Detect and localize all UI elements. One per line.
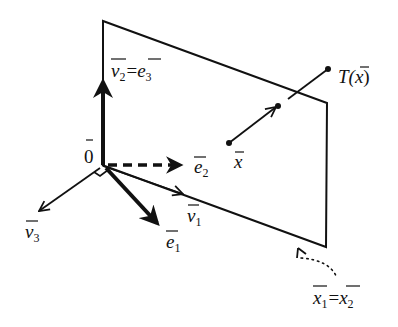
callout-x1-x2 — [297, 248, 337, 278]
svg-text:e1: e1 — [166, 231, 180, 255]
label-x1-equals-x2: x1=x2 — [312, 286, 360, 311]
label-v1: v1 — [187, 205, 201, 229]
plane — [102, 21, 327, 247]
diagram-canvas: 0 v2=e3 e2 x T(x) v1 e1 v3 x1=x2 — [0, 0, 398, 327]
vector-v3 — [39, 168, 100, 211]
label-Tx: T(x) — [338, 66, 370, 88]
svg-text:x: x — [233, 151, 243, 172]
reflection-segment — [226, 66, 331, 146]
svg-text:x1=x2: x1=x2 — [312, 287, 354, 311]
label-e1: e1 — [166, 231, 180, 255]
label-origin: 0 — [84, 140, 94, 167]
point-midpoint — [275, 103, 281, 109]
label-v3: v3 — [25, 221, 39, 245]
point-Tx — [325, 66, 331, 72]
label-v2-equals-e3: v2=e3 — [111, 59, 161, 84]
svg-text:v3: v3 — [25, 221, 39, 245]
svg-text:v2=e3: v2=e3 — [111, 60, 152, 84]
svg-text:T(x): T(x) — [338, 66, 370, 88]
svg-text:e2: e2 — [194, 156, 208, 180]
label-e2: e2 — [194, 156, 208, 180]
svg-text:0: 0 — [84, 146, 94, 167]
diagram-svg: 0 v2=e3 e2 x T(x) v1 e1 v3 x1=x2 — [0, 0, 398, 327]
point-x — [226, 140, 232, 146]
svg-text:v1: v1 — [187, 205, 201, 229]
label-x: x — [233, 151, 244, 172]
